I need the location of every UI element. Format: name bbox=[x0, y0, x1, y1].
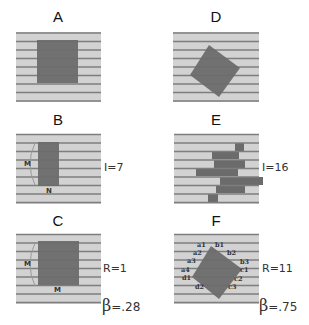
edge-label: b3 bbox=[240, 258, 249, 266]
edge-label: b1 bbox=[215, 241, 224, 249]
edge-label: a3 bbox=[187, 257, 196, 265]
panel-b bbox=[16, 134, 101, 204]
beta-value: =.28 bbox=[111, 300, 140, 314]
panel-e bbox=[174, 134, 263, 204]
dim-label-n: N bbox=[46, 187, 52, 195]
edge-label: c2 bbox=[234, 275, 242, 283]
square-object bbox=[37, 40, 78, 83]
edge-label: c1 bbox=[240, 266, 248, 274]
edge-label: d1 bbox=[182, 274, 191, 282]
edge-label: d2 bbox=[195, 283, 204, 291]
measure-label-e: I=16 bbox=[262, 161, 288, 174]
measure-label-c: R=1 bbox=[103, 262, 127, 275]
dim-label-m-width: M bbox=[54, 286, 61, 294]
edge-label: a4 bbox=[181, 266, 190, 274]
edge-label: a2 bbox=[193, 249, 202, 257]
panel-d bbox=[173, 32, 259, 102]
beta-value: =.75 bbox=[268, 300, 297, 314]
edge-label: a1 bbox=[197, 241, 206, 249]
beta-label-f: β=.75 bbox=[259, 296, 297, 315]
measure-label-f: R=11 bbox=[262, 262, 293, 275]
dim-label-m: M bbox=[24, 160, 31, 168]
rectangle-object bbox=[38, 142, 59, 186]
panel-a bbox=[16, 32, 101, 102]
square-object bbox=[38, 241, 79, 285]
edge-label: c3 bbox=[228, 283, 236, 291]
dim-label-m-height: M bbox=[24, 260, 31, 268]
beta-label-c: β=.28 bbox=[102, 296, 140, 315]
edge-label: b2 bbox=[227, 249, 236, 257]
beta-symbol: β bbox=[259, 296, 268, 315]
measure-label-b: I=7 bbox=[104, 161, 123, 174]
beta-symbol: β bbox=[102, 296, 111, 315]
